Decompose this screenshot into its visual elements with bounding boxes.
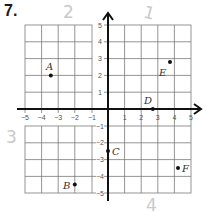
point-label: E: [158, 67, 167, 78]
x-tick: −2: [71, 114, 79, 121]
point-marker: [176, 166, 180, 170]
point-marker: [106, 149, 110, 153]
y-tick: 3: [98, 55, 102, 62]
y-axis: [103, 13, 113, 201]
x-tick: 2: [139, 114, 143, 121]
handwritten-quadrant-4: 4: [146, 195, 157, 212]
y-tick: 2: [98, 72, 102, 79]
point-marker: [73, 183, 77, 187]
coordinate-plane: −5 −4 −3 −2 −1 1 2 3 4 5 5 4 3 2 1 −1 −2…: [0, 0, 206, 212]
x-tick: 4: [172, 114, 176, 121]
y-tick: −3: [96, 156, 104, 163]
handwritten-quadrant-1: 1: [142, 2, 158, 24]
grid-quadrant-2: [25, 25, 108, 113]
point-f: F: [176, 163, 190, 174]
x-tick: 1: [123, 114, 127, 121]
handwritten-quadrant-2: 2: [63, 2, 74, 22]
handwritten-quadrant-3: 3: [6, 127, 17, 147]
point-label: A: [45, 61, 53, 72]
x-tick: −1: [88, 114, 96, 121]
x-tick: −5: [21, 114, 29, 121]
x-tick: −3: [54, 114, 62, 121]
point-label: B: [62, 180, 70, 191]
x-tick: 5: [189, 114, 193, 121]
y-tick: −5: [96, 190, 104, 197]
y-tick: −1: [96, 123, 104, 130]
point-label: D: [143, 95, 152, 106]
y-tick: −4: [96, 173, 104, 180]
point-label: F: [181, 163, 190, 174]
point-marker: [49, 73, 53, 77]
y-tick: 1: [98, 89, 102, 96]
x-tick: 3: [156, 114, 160, 121]
point-marker: [151, 107, 155, 111]
y-tick: 5: [98, 22, 102, 29]
point-label: C: [112, 146, 120, 157]
y-tick: 4: [98, 38, 102, 45]
y-tick: −2: [96, 139, 104, 146]
x-tick: −4: [38, 114, 46, 121]
point-marker: [168, 60, 172, 64]
point-a: A: [45, 61, 53, 77]
